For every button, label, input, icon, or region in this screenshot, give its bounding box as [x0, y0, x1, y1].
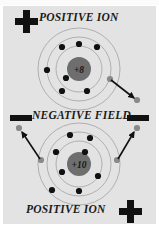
electron — [59, 88, 65, 94]
electron — [95, 173, 101, 179]
electron — [94, 44, 100, 50]
electron — [84, 88, 90, 94]
plus-sign-icon — [15, 10, 38, 33]
nucleus-label: +10 — [72, 160, 87, 170]
atom-top: +8 — [38, 28, 140, 110]
electron-escape-arrow-left — [22, 132, 40, 159]
ionization-diagram: +8 +10 — [0, 0, 159, 229]
electron — [76, 188, 82, 194]
plus-sign-icon — [119, 200, 142, 223]
electron — [76, 41, 82, 47]
atom-bottom: +10 — [16, 123, 140, 205]
escaping-electron-right-end — [134, 125, 140, 131]
electron — [87, 135, 93, 141]
electron — [49, 187, 55, 193]
escaping-electron-left-end — [16, 125, 22, 131]
electron — [82, 149, 88, 155]
electron — [59, 44, 65, 50]
escaping-electron-end — [134, 97, 140, 103]
electron — [59, 169, 65, 175]
plus-bar-vertical — [23, 10, 30, 33]
nucleus-label: +8 — [74, 65, 84, 75]
electron — [53, 149, 59, 155]
positive-ion-label-bottom: POSITIVE ION — [26, 203, 105, 215]
negative-field-label: NEGATIVE FIELD — [32, 109, 131, 121]
electron — [63, 75, 69, 81]
atom-top-free-electrons — [107, 76, 140, 103]
minus-sign-icon — [10, 115, 32, 121]
electron — [67, 132, 73, 138]
electron — [44, 67, 50, 73]
electron-escape-arrow-right — [118, 132, 134, 159]
positive-ion-label-top: POSITIVE ION — [39, 11, 118, 23]
plus-bar-vertical — [127, 200, 134, 223]
